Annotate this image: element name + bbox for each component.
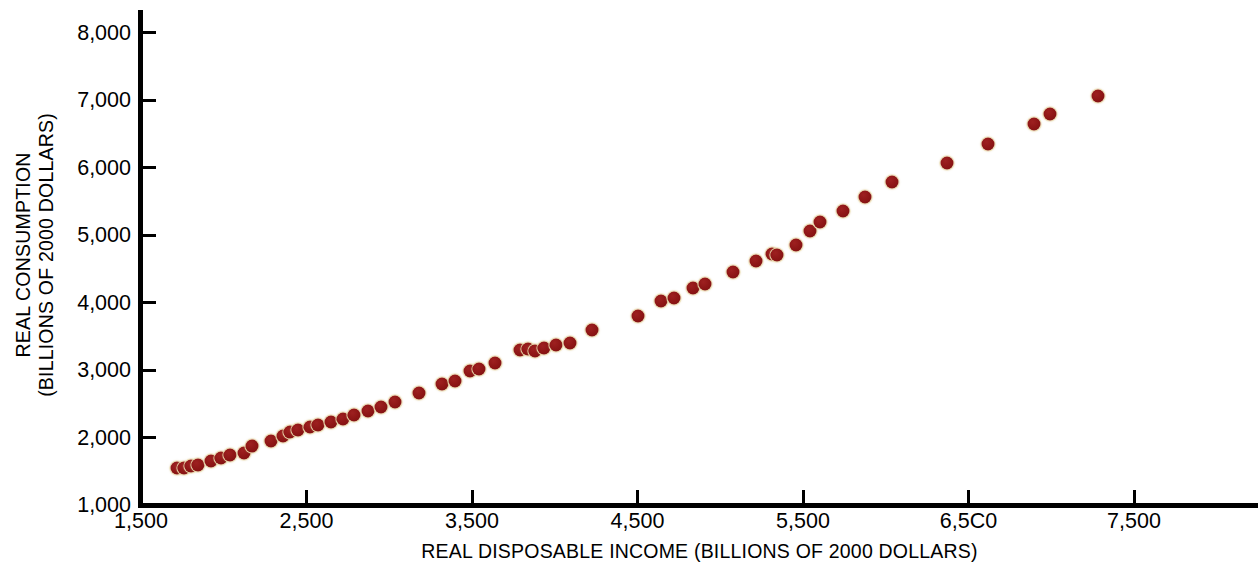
y-axis-tick [143,31,156,34]
x-axis-tick-label: 5,500 [776,509,830,534]
scatter-point [698,277,711,290]
scatter-point [522,343,535,356]
y-axis-tick-label: 8,000 [6,20,131,45]
x-axis-tick-label: 7,500 [1107,509,1161,534]
scatter-point [348,408,361,421]
y-tick-label-group: 1,0002,0003,0004,0005,0006,0007,0008,000 [6,0,131,573]
scatter-point [766,247,779,260]
scatter-point [448,374,461,387]
y-axis-tick [143,99,156,102]
x-axis-tick [967,490,970,503]
x-axis-tick-label: 4,500 [611,509,665,534]
scatter-point [204,454,217,467]
scatter-point [223,448,236,461]
scatter-point [264,435,277,448]
scatter-point [238,447,251,460]
scatter-point [631,310,644,323]
plot-area: 1,5002,5003,5004,5005,5006,5C07,500 [0,0,1258,573]
y-axis-tick-label: 7,000 [6,88,131,113]
y-axis-tick [143,436,156,439]
scatter-point [513,344,526,357]
x-axis-title: REAL DISPOSABLE INCOME (BILLIONS OF 2000… [141,540,1258,563]
scatter-point [585,323,598,336]
x-axis-tick-label: 3,500 [445,509,499,534]
x-axis-tick-label: 6,5C0 [940,509,997,534]
scatter-point [215,451,228,464]
scatter-point [859,190,872,203]
scatter-point [473,362,486,375]
x-axis-line [138,503,1258,508]
scatter-chart-figure: REAL CONSUMPTION (BILLIONS OF 2000 DOLLA… [0,0,1258,573]
x-axis-tick [1133,490,1136,503]
scatter-point [789,238,802,251]
scatter-point [654,295,667,308]
x-axis-tick [636,490,639,503]
scatter-point [1092,89,1105,102]
y-axis-tick-label: 6,000 [6,155,131,180]
scatter-point [413,386,426,399]
scatter-point [549,339,562,352]
y-axis-tick [143,369,156,372]
scatter-point [982,137,995,150]
scatter-point [325,415,338,428]
scatter-point [192,458,205,471]
scatter-point [178,461,191,474]
scatter-point [303,421,316,434]
scatter-point [312,419,325,432]
scatter-point [283,426,296,439]
scatter-point [245,440,258,453]
scatter-point [537,342,550,355]
x-axis-tick-label: 2,500 [280,509,334,534]
y-axis-tick-label: 2,000 [6,425,131,450]
scatter-point [1044,107,1057,120]
scatter-point [726,265,739,278]
y-axis-tick [143,166,156,169]
scatter-point [184,459,197,472]
y-axis-tick-label: 3,000 [6,358,131,383]
y-axis-tick-label: 1,000 [6,493,131,518]
scatter-point [563,337,576,350]
scatter-point [436,378,449,391]
y-axis-tick-label: 4,000 [6,290,131,315]
y-axis-tick [143,234,156,237]
scatter-point [1027,117,1040,130]
scatter-point [667,291,680,304]
scatter-point [361,404,374,417]
y-axis-line [138,10,143,508]
scatter-point [749,254,762,267]
scatter-point [464,365,477,378]
scatter-point [276,430,289,443]
scatter-point [885,176,898,189]
y-axis-tick-label: 5,000 [6,223,131,248]
scatter-point [374,401,387,414]
scatter-point [686,281,699,294]
scatter-point [292,424,305,437]
scatter-point [489,356,502,369]
scatter-point [804,225,817,238]
scatter-point [771,248,784,261]
scatter-point [940,156,953,169]
scatter-point [171,461,184,474]
y-axis-tick [143,301,156,304]
x-axis-tick [305,490,308,503]
scatter-point [336,412,349,425]
x-axis-tick [471,490,474,503]
x-axis-tick [802,490,805,503]
scatter-point [813,215,826,228]
scatter-point [528,345,541,358]
scatter-point [836,204,849,217]
scatter-point [389,396,402,409]
